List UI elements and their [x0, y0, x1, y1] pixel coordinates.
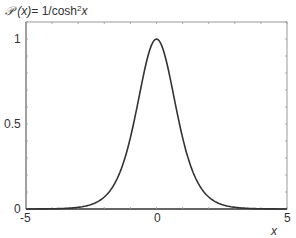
- chart-title: 𝒫 (x)= 1/cosh2x: [5, 5, 87, 17]
- title-eq: = 1/cosh: [31, 4, 77, 18]
- x-tick-label-0: 0: [154, 212, 161, 224]
- title-var: x: [81, 4, 87, 18]
- y-tick-label-0.5: 0.5: [4, 118, 21, 130]
- title-arg: (x): [14, 4, 31, 18]
- chart-canvas: [0, 0, 296, 238]
- y-tick-label-1: 1: [14, 33, 21, 45]
- x-tick-label-5: 5: [284, 212, 291, 224]
- data-line: [26, 39, 287, 209]
- x-axis-label: x: [271, 225, 277, 237]
- x-tick-label-neg5: -5: [20, 212, 31, 224]
- title-symbol: 𝒫: [5, 4, 14, 18]
- plot-frame: [26, 22, 287, 209]
